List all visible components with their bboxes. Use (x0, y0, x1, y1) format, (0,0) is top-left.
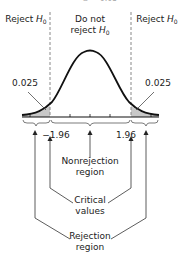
critical-values-label: Critical values (66, 195, 114, 217)
right-rejection-brace (131, 120, 158, 126)
normal-curve (22, 51, 159, 116)
right-reject-label: Reject H0 (135, 14, 179, 27)
nonrejection-brace (51, 120, 130, 126)
rejection-region-label: Rejection region (62, 231, 118, 253)
arrowhead-rejection-right (144, 130, 149, 135)
left-reject-label: Reject H0 (4, 14, 48, 27)
left-tail-leader (28, 92, 46, 110)
normal-distribution-diagram (0, 0, 185, 259)
right-critical-value: 1.96 (114, 130, 138, 141)
left-critical-value: −1.96 (42, 130, 70, 141)
left-rejection-brace (23, 120, 50, 126)
rejection-arrow-left-line (35, 133, 70, 239)
arrowhead-rejection-left (33, 130, 38, 135)
nonrejection-region-label: Nonrejection region (58, 156, 122, 178)
right-tail-leader (136, 92, 154, 110)
title-partial: α = 0.05 (70, 0, 130, 4)
arrowhead-nonrejection (88, 130, 93, 135)
left-tail-area: 0.025 (10, 78, 40, 89)
right-tail-area: 0.025 (143, 78, 173, 89)
center-do-not-reject-label: Do not reject H0 (60, 14, 120, 38)
rejection-arrow-right-line (111, 133, 146, 239)
